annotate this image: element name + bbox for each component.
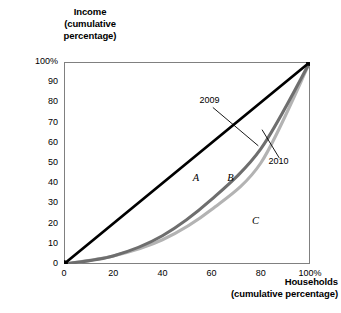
y-axis-title-line-1: Income — [74, 6, 107, 17]
y-axis-tick-label: 100% — [18, 56, 58, 66]
y-axis-tick-label: 80 — [18, 96, 58, 106]
region-label-c: C — [252, 215, 259, 226]
x-axis-tick-label: 80 — [241, 268, 281, 278]
series-callout-2009: 2009 — [200, 95, 220, 105]
y-axis-tick-label: 30 — [18, 197, 58, 207]
y-axis-tick-label: 10 — [18, 238, 58, 248]
x-axis-tick-label: 40 — [142, 268, 182, 278]
x-axis-tick-label: 0 — [44, 268, 84, 278]
region-label-a: A — [193, 172, 199, 183]
lorenz-curve-figure: Income (cumulative percentage) Household… — [0, 0, 341, 313]
y-axis-tick-label: 70 — [18, 117, 58, 127]
x-axis-tick-label: 60 — [192, 268, 232, 278]
region-label-b: B — [227, 172, 233, 183]
x-axis-tick-label: 100% — [290, 268, 330, 278]
y-axis-tick-label: 20 — [18, 218, 58, 228]
y-axis-title-line-3: percentage) — [64, 30, 117, 41]
y-axis-tick-label: 40 — [18, 177, 58, 187]
y-axis-title: Income (cumulative percentage) — [30, 6, 150, 43]
series-callout-2010: 2010 — [268, 156, 288, 166]
y-axis-title-line-2: (cumulative — [64, 18, 116, 29]
y-axis-tick-label: 0 — [18, 258, 58, 268]
x-axis-tick-label: 20 — [93, 268, 133, 278]
x-axis-title: Households (cumulative percentage) — [186, 276, 338, 300]
y-axis-tick-label: 50 — [18, 157, 58, 167]
y-axis-tick-label: 90 — [18, 76, 58, 86]
callout-leader-2009 — [213, 107, 259, 145]
x-axis-title-line-2: (cumulative percentage) — [231, 288, 338, 299]
y-axis-tick-label: 60 — [18, 137, 58, 147]
